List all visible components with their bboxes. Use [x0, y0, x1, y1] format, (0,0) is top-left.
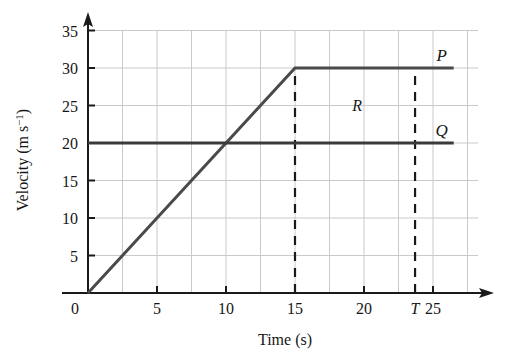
series-end-labels: PQ — [436, 46, 448, 140]
annotation-R: R — [351, 97, 362, 114]
y-axis-tick-label: 5 — [70, 248, 78, 265]
annotation-T: T — [411, 300, 421, 317]
y-axis-title-tail: ) — [14, 109, 32, 114]
series-label-Q: Q — [436, 121, 448, 140]
y-axis-tick-label: 10 — [62, 210, 78, 227]
y-axis-title-group: Velocity (m s−1) — [13, 109, 32, 211]
y-axis-tick-label: 30 — [62, 60, 78, 77]
x-axis-tick-label: 25 — [425, 300, 441, 317]
x-axis-tick-labels: 0510152025 — [71, 300, 441, 317]
x-axis-tick-label: 15 — [287, 300, 303, 317]
y-axis-tick-label: 15 — [62, 173, 78, 190]
y-axis-tick-labels: 5101520253035 — [62, 23, 78, 265]
y-axis-title-main: Velocity (m s — [14, 126, 32, 211]
y-axis-title-superscript: −1 — [13, 114, 25, 126]
y-axis-tick-label: 25 — [62, 98, 78, 115]
y-axis-tick-label: 20 — [62, 135, 78, 152]
series-label-P: P — [436, 46, 447, 65]
chart-annotations: RT — [351, 97, 420, 318]
x-axis-tick-label: 0 — [71, 300, 79, 317]
y-axis-tick-label: 35 — [62, 23, 78, 40]
x-axis-title: Time (s) — [258, 331, 312, 349]
y-axis-title: Velocity (m s−1) — [13, 109, 32, 211]
x-axis-tick-label: 5 — [153, 300, 161, 317]
x-axis-tick-label: 10 — [218, 300, 234, 317]
velocity-time-graph-figure: 0510152025 5101520253035 PQ RT Time (s) … — [0, 0, 508, 355]
x-axis-tick-label: 20 — [356, 300, 372, 317]
chart-canvas: 0510152025 5101520253035 PQ RT Time (s) … — [0, 0, 508, 355]
